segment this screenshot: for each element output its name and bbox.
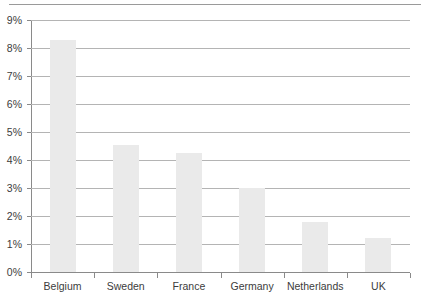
y-axis-label: 5%	[0, 127, 22, 138]
y-axis-label: 9%	[0, 15, 22, 26]
bar	[50, 40, 76, 272]
y-axis-label: 0%	[0, 267, 22, 278]
x-axis-label: UK	[347, 281, 410, 292]
bar	[302, 222, 328, 272]
y-axis-label: 8%	[0, 43, 22, 54]
x-axis-label: Belgium	[31, 281, 94, 292]
x-axis-label: Germany	[221, 281, 284, 292]
bar	[365, 238, 391, 272]
y-axis-label: 3%	[0, 183, 22, 194]
x-axis-tick	[31, 273, 32, 278]
x-axis-label: Netherlands	[284, 281, 347, 292]
x-axis-label: France	[157, 281, 220, 292]
x-axis-tick	[284, 273, 285, 278]
x-axis-tick	[347, 273, 348, 278]
x-axis-tick	[94, 273, 95, 278]
y-axis-label: 2%	[0, 211, 22, 222]
y-axis-label: 6%	[0, 99, 22, 110]
y-axis-label: 4%	[0, 155, 22, 166]
y-axis-label: 1%	[0, 239, 22, 250]
bar	[113, 145, 139, 272]
x-axis-tick	[410, 273, 411, 278]
x-axis-tick	[157, 273, 158, 278]
y-axis-label: 7%	[0, 71, 22, 82]
bar	[239, 188, 265, 272]
bar-chart: 0%1%2%3%4%5%6%7%8%9% BelgiumSwedenFrance…	[0, 0, 430, 308]
top-divider-rule	[9, 4, 421, 5]
bar	[176, 153, 202, 272]
x-axis-label: Sweden	[94, 281, 157, 292]
x-axis-tick	[221, 273, 222, 278]
plot-area	[31, 20, 410, 272]
